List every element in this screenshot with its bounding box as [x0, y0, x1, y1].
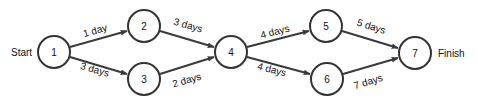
node-label-4: 4	[228, 47, 234, 58]
edge-label-2-4: 3 days	[173, 16, 204, 35]
node-1: 1	[38, 36, 70, 68]
edge-label-5-7: 5 days	[356, 17, 387, 36]
start-label: Start	[11, 47, 32, 58]
node-6: 6	[311, 63, 343, 95]
edge-label-6-7: 7 days	[352, 72, 383, 91]
node-label-3: 3	[141, 74, 147, 85]
node-2: 2	[128, 10, 160, 42]
edge-2-4	[160, 31, 214, 47]
edge-label-4-6: 4 days	[256, 60, 287, 78]
edge-5-7	[342, 31, 398, 48]
node-label-7: 7	[412, 48, 418, 59]
node-3: 3	[128, 63, 160, 95]
edge-6-7	[343, 58, 398, 74]
node-label-6: 6	[324, 74, 330, 85]
node-4: 4	[215, 36, 247, 68]
edge-3-4	[160, 57, 214, 74]
node-label-2: 2	[141, 21, 147, 32]
edge-label-3-4: 2 days	[171, 71, 202, 90]
node-5: 5	[310, 10, 342, 42]
project-network-diagram: Start Finish 1 day 3 days 3 days 2 days …	[0, 0, 478, 104]
edge-label-1-3: 3 days	[79, 60, 110, 79]
node-label-5: 5	[323, 21, 329, 32]
finish-label: Finish	[438, 48, 465, 59]
node-7: 7	[399, 37, 431, 69]
node-label-1: 1	[51, 47, 57, 58]
